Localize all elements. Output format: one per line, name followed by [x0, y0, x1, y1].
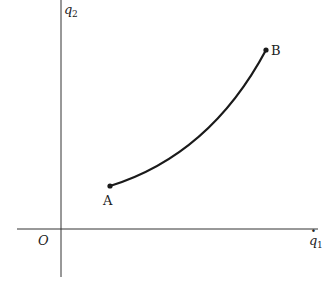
point-b-label: B [271, 43, 281, 58]
trajectory-curve [110, 50, 266, 186]
point-b-dot [263, 47, 268, 52]
x-axis-label-subscript: 1 [317, 240, 323, 250]
phase-diagram: A B O q 2 · q 1 [0, 0, 332, 291]
origin-label: O [38, 233, 49, 248]
y-axis-label-subscript: 2 [72, 9, 78, 19]
point-a-label: A [102, 193, 113, 208]
point-a-dot [107, 183, 112, 188]
